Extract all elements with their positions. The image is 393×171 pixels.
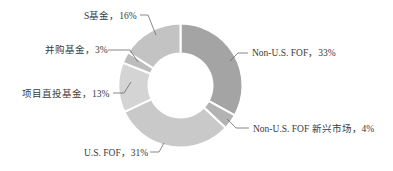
label-non-us-fof-emerging: Non-U.S. FOF 新兴市场，4%: [253, 123, 374, 134]
label-non-us-fof: Non-U.S. FOF，33%: [252, 48, 336, 58]
donut-segments: [118, 24, 242, 148]
label-secondary-fund: S基金，16%: [84, 10, 137, 21]
label-direct-investment-fund: 项目直投基金，13%: [22, 88, 110, 99]
donut-chart: Non-U.S. FOF，33% Non-U.S. FOF 新兴市场，4% U.…: [0, 0, 393, 171]
label-us-fof: U.S. FOF，31%: [84, 148, 148, 158]
label-buyout-fund: 并购基金，3%: [45, 44, 108, 55]
